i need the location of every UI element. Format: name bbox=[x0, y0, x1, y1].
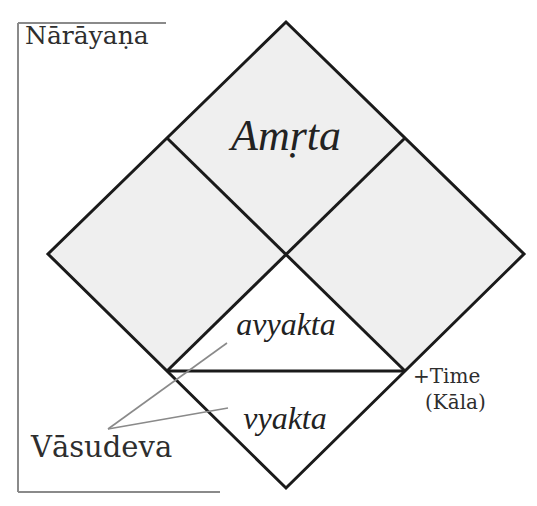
vyakta-label: vyakta bbox=[243, 400, 327, 436]
vasudeva-label: Vāsudeva bbox=[30, 430, 172, 464]
avyakta-label: avyakta bbox=[236, 306, 336, 342]
kala-label: (Kāla) bbox=[425, 390, 486, 414]
narayana-diagram: Nārāyaṇa Amṛta avyakta vyakta Vāsudeva +… bbox=[0, 0, 537, 506]
time-label: +Time bbox=[413, 364, 480, 388]
amrta-label: Amṛta bbox=[228, 111, 341, 160]
narayana-label: Nārāyaṇa bbox=[25, 21, 149, 50]
